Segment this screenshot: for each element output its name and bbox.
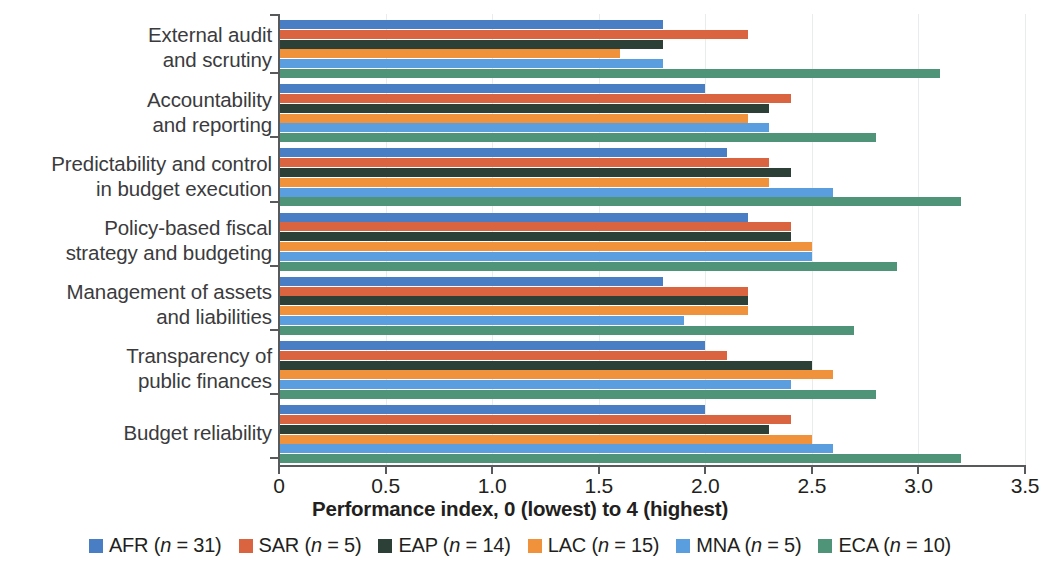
bar <box>279 444 833 453</box>
x-axis-tick <box>598 465 600 474</box>
x-axis-tick <box>278 465 280 474</box>
bar-fill <box>279 380 791 389</box>
legend-item-mna[interactable]: MNA (n = 5) <box>676 534 801 557</box>
legend-swatch-icon <box>818 539 832 553</box>
bar-fill <box>279 361 812 370</box>
bar <box>279 59 663 68</box>
bar <box>279 296 748 305</box>
bar-fill <box>279 188 833 197</box>
legend-swatch-icon <box>528 539 542 553</box>
y-axis-tick <box>270 329 278 331</box>
legend-item-afr[interactable]: AFR (n = 31) <box>89 534 222 557</box>
y-axis-line <box>278 14 280 466</box>
x-axis-line <box>278 465 1026 467</box>
plot-area <box>279 14 1025 466</box>
x-axis-tick <box>385 465 387 474</box>
bar <box>279 262 897 271</box>
bar <box>279 133 876 142</box>
legend-swatch-icon <box>378 539 392 553</box>
category-label: Policy-based fiscal strategy and budgeti… <box>4 215 272 265</box>
bar-fill <box>279 435 812 444</box>
bar-fill <box>279 277 663 286</box>
legend-label: SAR (n = 5) <box>259 534 362 557</box>
bar <box>279 40 663 49</box>
bar-fill <box>279 84 705 93</box>
bar-fill <box>279 405 705 414</box>
bar-fill <box>279 148 727 157</box>
bar <box>279 94 791 103</box>
bar <box>279 30 748 39</box>
bar <box>279 114 748 123</box>
legend-label: EAP (n = 14) <box>398 534 510 557</box>
y-axis-tick <box>270 201 278 203</box>
legend-label: LAC (n = 15) <box>548 534 660 557</box>
bar <box>279 222 791 231</box>
bar-fill <box>279 30 748 39</box>
category-axis-labels: External audit and scrutinyAccountabilit… <box>0 0 272 564</box>
category-label: Predictability and control in budget exe… <box>4 151 272 201</box>
bar-fill <box>279 20 663 29</box>
x-axis-tick <box>1024 465 1026 474</box>
bar-fill <box>279 296 748 305</box>
bar <box>279 158 769 167</box>
bar-fill <box>279 454 961 463</box>
bar-fill <box>279 444 833 453</box>
bar-fill <box>279 213 748 222</box>
bar-chart: External audit and scrutinyAccountabilit… <box>0 0 1040 564</box>
x-axis-tick <box>491 465 493 474</box>
bar-fill <box>279 49 620 58</box>
gridline <box>918 14 919 466</box>
y-axis-tick <box>270 72 278 74</box>
bar <box>279 178 769 187</box>
bar <box>279 49 620 58</box>
bar-fill <box>279 222 791 231</box>
bar <box>279 213 748 222</box>
category-label: Transparency of public finances <box>4 343 272 393</box>
x-axis-tick <box>811 465 813 474</box>
bar <box>279 287 748 296</box>
bar-fill <box>279 370 833 379</box>
x-axis-title: Performance index, 0 (lowest) to 4 (high… <box>0 497 1040 521</box>
bar-fill <box>279 232 791 241</box>
bar <box>279 148 727 157</box>
legend-item-eca[interactable]: ECA (n = 10) <box>818 534 951 557</box>
bar <box>279 390 876 399</box>
category-label: External audit and scrutiny <box>4 22 272 72</box>
bar-fill <box>279 197 961 206</box>
bar <box>279 20 663 29</box>
bar-fill <box>279 123 769 132</box>
bar <box>279 69 940 78</box>
bar <box>279 123 769 132</box>
bar <box>279 435 812 444</box>
bar <box>279 252 812 261</box>
bar <box>279 370 833 379</box>
bar <box>279 316 684 325</box>
y-axis-tick <box>270 265 278 267</box>
bar-fill <box>279 326 854 335</box>
x-axis-tick-label: 0.5 <box>371 474 400 498</box>
bar-fill <box>279 114 748 123</box>
bar-fill <box>279 425 769 434</box>
bar <box>279 277 663 286</box>
bar-fill <box>279 59 663 68</box>
x-axis-tick-label: 3.0 <box>904 474 933 498</box>
bar-fill <box>279 158 769 167</box>
legend-item-sar[interactable]: SAR (n = 5) <box>239 534 362 557</box>
category-label: Management of assets and liabilities <box>4 279 272 329</box>
legend-swatch-icon <box>239 539 253 553</box>
bar <box>279 84 705 93</box>
bar <box>279 306 748 315</box>
bar <box>279 454 961 463</box>
legend-item-lac[interactable]: LAC (n = 15) <box>528 534 660 557</box>
x-axis-tick-label: 2.5 <box>798 474 827 498</box>
bar-fill <box>279 306 748 315</box>
y-axis-tick <box>270 136 278 138</box>
y-axis-tick <box>270 14 278 16</box>
bar <box>279 361 812 370</box>
bar <box>279 104 769 113</box>
bar <box>279 188 833 197</box>
legend-item-eap[interactable]: EAP (n = 14) <box>378 534 510 557</box>
legend-label: MNA (n = 5) <box>696 534 801 557</box>
bar <box>279 242 812 251</box>
bar-fill <box>279 351 727 360</box>
